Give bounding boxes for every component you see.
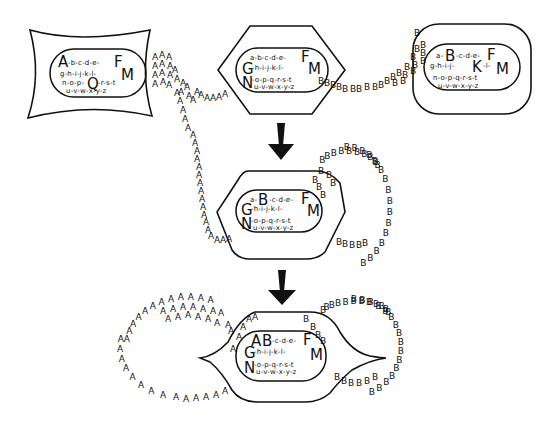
trail-letter: B [372,82,378,92]
trail-letter: B [382,174,388,184]
trail-letter: B [320,190,326,200]
trail-letter: A [228,326,235,336]
genes-line4: u-v-w-x-y-z [253,224,294,232]
trail-letter: B [341,376,347,386]
trail-letter: A [203,392,210,402]
genes-line3b: -r-s-t [98,79,116,87]
trail-letter: B [410,66,416,76]
trail-a-letters: AAAAAAAAAAAAAAAAAAAAAAAAAAAAAAAAAAAAAAAA… [117,50,259,404]
genes-line3: n-o-p-q-r-s-t [433,74,477,82]
genes-line2b: -l- [483,62,491,70]
trail-letter: B [338,146,344,156]
cell-fusion-diagram: A -b-c-d-e- F g-h-i-j-k-l- M n-o-p- Q -r… [0,0,546,431]
genes-line4: u-v-w-x-y-z [254,83,295,91]
trail-letter: B [358,296,364,306]
trail-letter: A [175,312,182,322]
gene-M: M [121,66,134,84]
trail-letter: A [150,301,157,311]
cell-4: a- B -c-d-e- F G -h-i-j-k-l- M N -o-p-q-… [217,171,345,259]
genes-line2: -h-i-j-k-l- [251,205,283,213]
trail-letter: B [378,80,384,90]
arrow-down-2 [268,270,296,305]
trail-letter: A [166,80,173,90]
genes-line1: a-b-c-d-e- [250,54,286,62]
trail-letter: A [193,393,200,403]
trail-letter: B [420,56,426,66]
trail-letter: B [400,76,406,86]
trail-letter: B [414,28,420,38]
trail-letter: B [342,239,348,249]
genes-line2a: g-h-i-j- [430,62,455,70]
trail-letter: A [138,380,145,390]
trail-letter: B [350,84,356,94]
trail-letter: A [178,292,185,302]
trail-letter: A [124,334,131,344]
trail-letter: B [336,82,342,92]
trail-letter: B [312,175,318,185]
trail-letter: B [331,148,337,158]
trail-letter: B [392,78,398,88]
trail-letter: A [118,334,125,344]
trail-letter: B [356,378,362,388]
trail-letter: B [346,146,352,156]
gene-M: M [307,202,320,220]
trail-letter: A [226,234,233,244]
trail-letter: A [117,344,124,354]
trail-letter: B [372,372,378,382]
trail-letter: A [188,292,195,302]
trail-letter: A [152,79,159,89]
cell-2: a-b-c-d-e- F G -h-i-j-k-l- M N -o-p-q-r-… [218,26,345,114]
trail-letter: B [335,298,341,308]
arrow-down-1 [268,123,294,160]
trail-letter: B [318,76,324,86]
genes-line4: u-v-w-x-y-z [66,87,107,95]
trail-letter: B [342,297,348,307]
genes-line1: -b-c-d-e- [68,59,100,67]
trail-letter: A [205,314,212,324]
trail-letter: B [387,207,393,217]
trail-letter: B [324,151,330,161]
trail-letter: B [330,80,336,90]
trail-letter: B [362,238,368,248]
trail-letter: A [148,386,155,396]
trail-letter: B [324,78,330,88]
trail-letter: B [320,336,326,346]
trail-letter: B [350,296,356,306]
trail-letter: B [330,178,336,188]
trail-letter: A [222,89,229,99]
trail-letter: B [303,314,309,324]
trail-letter: A [230,344,237,354]
trail-letter: B [364,82,370,92]
trail-letter: A [183,394,190,404]
trail-letter: A [252,312,259,322]
trail-letter: A [236,332,243,342]
cell-3: a- B -c-d-e- F g-h-i-j- K -l- M n-o-p-q-… [413,24,531,114]
trail-letter: A [222,386,229,396]
genes-line2: -h-i-j-k-l- [254,348,286,356]
trail-letter: B [349,240,355,250]
gene-M: M [496,60,509,78]
trail-letter: B [385,185,391,195]
trail-letter: B [329,300,335,310]
trail-letter: B [342,84,348,94]
trail-letter: B [366,297,372,307]
genes-line1: -c-d-e- [272,337,296,345]
trail-letter: B [360,258,366,268]
gene-M: M [310,346,323,364]
trail-letter: A [135,312,142,322]
trail-letter: B [385,307,391,317]
trail-letter: A [198,293,205,303]
genes-line3a: n-o-p- [62,79,84,87]
genes-line2: -h-i-j-k-l- [252,64,284,72]
genes-line1b: -c-d-e- [269,196,293,204]
trail-letter: A [185,310,192,320]
trail-letter: B [383,228,389,238]
trail-letter: A [129,372,136,382]
trail-letter: B [334,372,340,382]
trail-letter: B [389,371,395,381]
trail-letter: B [386,218,392,228]
trail-letter: B [364,376,370,386]
trail-letter: B [348,378,354,388]
trail-letter: B [369,387,375,397]
trail-letter: A [160,390,167,400]
